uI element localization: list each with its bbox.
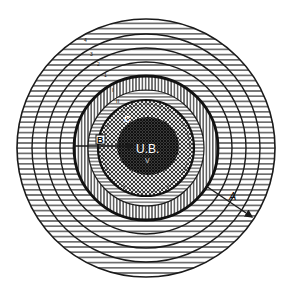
ring-1-label: 1 <box>104 72 107 78</box>
concentric-zone-diagram: U.B. V B C A I II 4 3 2 1 <box>0 0 289 295</box>
ring-3-label: 3 <box>90 51 93 57</box>
ring-c-label: C <box>124 114 131 124</box>
radius-a-label: A <box>228 190 236 202</box>
ring-b-label: B <box>97 135 104 145</box>
core-sub-label: V <box>145 157 150 164</box>
diagram-canvas: U.B. V B C A I II 4 3 2 1 <box>0 0 289 295</box>
band-ii-label: II <box>116 98 120 104</box>
core-label: U.B. <box>136 142 159 156</box>
ring-4-label: 4 <box>84 37 87 43</box>
ring-2-label: 2 <box>97 61 100 67</box>
